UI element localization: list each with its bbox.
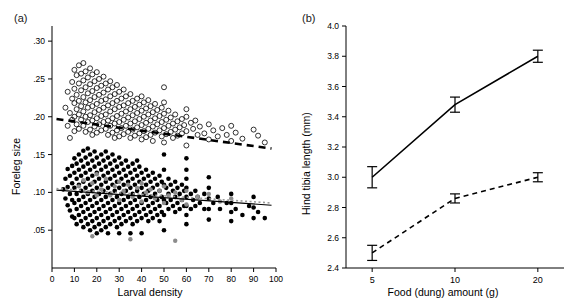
- data-point: [139, 94, 144, 99]
- data-point: [101, 158, 106, 163]
- data-point: [229, 210, 234, 215]
- data-point: [90, 173, 95, 178]
- data-point: [195, 132, 200, 137]
- data-point: [162, 100, 167, 105]
- data-point: [135, 173, 140, 178]
- data-point: [72, 86, 77, 91]
- data-point: [124, 219, 129, 224]
- data-point: [126, 210, 131, 215]
- data-point: [137, 210, 142, 215]
- data-point: [251, 205, 256, 210]
- data-point: [108, 176, 113, 181]
- panel-b-x-axis-title: Food (dung) amount (g): [333, 286, 553, 298]
- data-point: [180, 183, 185, 188]
- data-point: [256, 133, 261, 138]
- data-point: [99, 152, 104, 157]
- data-point: [240, 213, 245, 218]
- data-point: [90, 181, 94, 185]
- data-point: [92, 164, 97, 169]
- data-point: [124, 158, 129, 163]
- data-point: [166, 207, 171, 212]
- data-point: [88, 152, 93, 157]
- data-point: [112, 204, 117, 209]
- data-point: [130, 176, 135, 181]
- data-point: [74, 222, 79, 227]
- data-point: [115, 164, 120, 169]
- data-point: [106, 186, 111, 191]
- data-point: [202, 207, 207, 212]
- data-point: [206, 122, 211, 127]
- panel-b-y-axis-title: Hind tibia length (mm): [300, 112, 312, 215]
- panel-a-y-tick-label: .05: [33, 225, 45, 235]
- data-point: [262, 140, 267, 145]
- data-point: [106, 170, 111, 175]
- panel-b-y-tick-label: 3.0: [327, 172, 339, 182]
- data-point: [128, 170, 133, 175]
- data-point: [85, 75, 90, 80]
- data-point: [119, 161, 124, 166]
- panel-a-y-axis-title: Foreleg size: [10, 138, 22, 195]
- data-point: [128, 92, 133, 97]
- data-point: [90, 89, 95, 94]
- series-line: [372, 56, 538, 177]
- panel-b-x-tick-label: 20: [533, 275, 543, 285]
- data-point: [121, 213, 126, 218]
- data-point: [83, 85, 88, 90]
- panel-a-x-tick-label: 10: [70, 274, 80, 284]
- data-point: [74, 92, 79, 97]
- panel-a-x-tick-label: 40: [137, 274, 147, 284]
- data-point: [151, 216, 156, 221]
- data-point: [95, 186, 100, 191]
- data-point: [67, 110, 72, 115]
- data-point: [72, 156, 77, 161]
- panel-b-y-tick-label: 2.6: [327, 233, 339, 243]
- data-point: [157, 189, 161, 193]
- data-point: [121, 167, 126, 172]
- panel-b-solid-line-series: [367, 50, 543, 188]
- panel-a-y-tick-label: .15: [33, 150, 45, 160]
- data-point: [168, 183, 173, 188]
- data-point: [159, 105, 164, 110]
- data-point: [77, 184, 81, 188]
- data-point: [184, 176, 189, 181]
- series-line: [372, 177, 538, 253]
- data-point: [99, 213, 104, 218]
- data-point: [263, 216, 268, 221]
- data-point: [88, 82, 93, 87]
- data-point: [135, 186, 139, 190]
- data-point: [233, 207, 238, 212]
- data-point: [101, 90, 106, 95]
- data-point: [65, 123, 70, 128]
- data-point: [130, 161, 135, 166]
- data-point: [97, 222, 102, 227]
- data-point: [86, 207, 91, 212]
- data-point: [72, 216, 77, 221]
- data-point: [224, 132, 229, 137]
- panel-a-plot: 0102030405060708090100.05.10.15.20.25.30: [0, 0, 288, 307]
- data-point: [139, 216, 144, 221]
- data-point: [151, 201, 156, 206]
- data-point: [81, 225, 86, 230]
- data-point: [117, 180, 121, 184]
- data-point: [182, 123, 187, 128]
- data-point: [128, 237, 132, 241]
- data-point: [240, 136, 245, 141]
- data-point: [74, 192, 79, 197]
- data-point: [162, 152, 167, 157]
- data-point: [77, 213, 82, 218]
- data-point: [157, 204, 162, 209]
- data-point: [103, 164, 108, 169]
- data-point: [175, 201, 180, 206]
- data-point: [86, 161, 91, 166]
- data-point: [207, 192, 211, 196]
- data-point: [104, 177, 108, 181]
- data-point: [150, 138, 155, 143]
- data-point: [81, 95, 86, 100]
- data-point: [101, 74, 106, 79]
- figure-root: (a) 0102030405060708090100.05.10.15.20.2…: [0, 0, 582, 307]
- data-point: [65, 203, 70, 208]
- data-point: [133, 167, 138, 172]
- data-point: [184, 167, 189, 172]
- data-point: [207, 217, 212, 222]
- data-point: [70, 164, 75, 169]
